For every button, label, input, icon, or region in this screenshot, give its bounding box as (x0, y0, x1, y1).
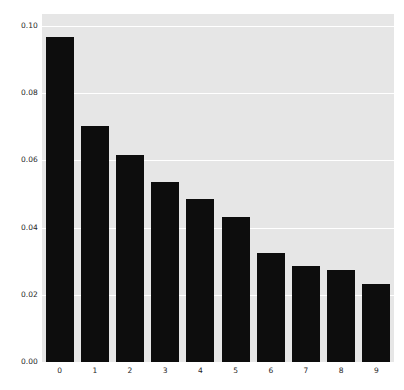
x-tick-label-9: 9 (374, 366, 379, 376)
y-tick-label-0.02: 0.02 (0, 291, 38, 299)
x-tick-label-2: 2 (128, 366, 133, 376)
y-tick-label-0.06: 0.06 (0, 156, 38, 164)
x-tick-label-5: 5 (233, 366, 238, 376)
x-tick-label-8: 8 (339, 366, 344, 376)
x-tick-label-1: 1 (92, 366, 97, 376)
x-tick-label-3: 3 (163, 366, 168, 376)
bar-1[interactable] (81, 126, 109, 362)
bar-2[interactable] (116, 155, 144, 362)
bar-7[interactable] (292, 266, 320, 362)
bar-chart-figure: 0.000.020.040.060.080.10 0123456789 (0, 0, 404, 390)
y-axis-tick-labels: 0.000.020.040.060.080.10 (0, 14, 38, 362)
y-tick-label-0.04: 0.04 (0, 224, 38, 232)
x-tick-label-7: 7 (304, 366, 309, 376)
bar-8[interactable] (327, 270, 355, 362)
x-tick-label-4: 4 (198, 366, 203, 376)
bar-group (42, 14, 394, 362)
bar-0[interactable] (46, 37, 74, 362)
y-tick-label-0.08: 0.08 (0, 89, 38, 97)
y-tick-label-0.00: 0.00 (0, 358, 38, 366)
plot-area (42, 14, 394, 362)
bar-3[interactable] (151, 182, 179, 362)
x-tick-label-0: 0 (57, 366, 62, 376)
bar-6[interactable] (257, 253, 285, 362)
x-axis-tick-labels: 0123456789 (42, 366, 394, 380)
y-tick-label-0.10: 0.10 (0, 22, 38, 30)
x-tick-label-6: 6 (268, 366, 273, 376)
bar-4[interactable] (186, 199, 214, 362)
bar-5[interactable] (222, 217, 250, 362)
bar-9[interactable] (362, 284, 390, 362)
